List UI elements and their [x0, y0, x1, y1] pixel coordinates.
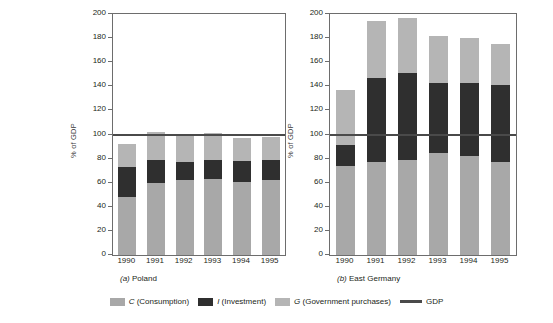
x-tick-label-1990: 1990 — [112, 256, 141, 266]
y-tick-label: 200 — [93, 9, 106, 17]
bar-segment-c — [491, 162, 510, 255]
legend-item-gdp: GDP — [400, 297, 443, 306]
legend-line-marker — [400, 300, 422, 303]
chart-panels: % of GDP 020406080100120140160180200 199… — [0, 0, 553, 290]
bar-1990 — [118, 144, 136, 255]
y-tick-label: 0 — [102, 250, 106, 258]
bar-1991 — [367, 21, 386, 255]
x-tick-label-1992: 1992 — [169, 256, 198, 266]
gdp-reference-line-poland — [113, 134, 285, 136]
y-tick-label: 160 — [93, 57, 106, 65]
bar-1994 — [233, 138, 251, 255]
y-axis-label-east-germany: % of GDP — [286, 123, 295, 158]
plot-area-poland — [112, 13, 286, 256]
x-tick-label-1991: 1991 — [360, 256, 391, 266]
bar-segment-i — [233, 161, 251, 181]
x-tick-label-1995: 1995 — [255, 256, 284, 266]
panel-caption-east-germany: (b) East Germany — [337, 274, 400, 283]
bar-1991 — [147, 132, 165, 255]
bar-segment-c — [176, 180, 194, 255]
y-tick-label: 200 — [310, 9, 323, 17]
x-tick-label-1995: 1995 — [484, 256, 515, 266]
bar-segment-c — [118, 197, 136, 255]
panel-letter-b: (b) — [337, 274, 347, 283]
y-axis-label-poland: % of GDP — [69, 123, 78, 158]
legend-label: I (Investment) — [217, 297, 266, 306]
bar-1993 — [204, 133, 222, 255]
bar-segment-g — [118, 144, 136, 167]
x-tick-label-1993: 1993 — [198, 256, 227, 266]
y-tick-label: 20 — [314, 226, 323, 234]
y-tick-label: 180 — [93, 33, 106, 41]
bar-segment-i — [398, 73, 417, 160]
x-tick-label-1993: 1993 — [422, 256, 453, 266]
bar-1990 — [336, 90, 355, 255]
bar-segment-c — [336, 166, 355, 255]
x-axis-ticks-east-germany: 199019911992199319941995 — [329, 256, 515, 270]
panel-caption-poland: (a) Poland — [120, 274, 157, 283]
bar-segment-c — [147, 183, 165, 255]
bar-segment-c — [204, 179, 222, 255]
chart-panel-poland: % of GDP 020406080100120140160180200 199… — [60, 0, 288, 290]
y-tick-label: 40 — [97, 202, 106, 210]
y-tick-label: 80 — [97, 154, 106, 162]
bar-1993 — [429, 36, 448, 255]
y-tick-label: 20 — [97, 226, 106, 234]
legend-label: GDP — [426, 297, 443, 306]
y-tick-label: 100 — [93, 130, 106, 138]
legend-label: C (Consumption) — [129, 297, 189, 306]
bar-segment-g — [336, 90, 355, 145]
x-tick-label-1994: 1994 — [227, 256, 256, 266]
bar-segment-c — [429, 153, 448, 255]
bar-segment-g — [233, 138, 251, 161]
bar-segment-g — [491, 44, 510, 85]
y-tick-label: 0 — [319, 250, 323, 258]
legend-swatch — [275, 298, 290, 306]
bar-segment-c — [233, 182, 251, 256]
y-tick-label: 120 — [310, 105, 323, 113]
bar-1992 — [176, 136, 194, 255]
legend-label: G (Government purchases) — [294, 297, 391, 306]
bar-segment-i — [429, 83, 448, 153]
chart-panel-east-germany: % of GDP 020406080100120140160180200 199… — [282, 0, 522, 290]
legend-swatch — [110, 298, 125, 306]
plot-area-east-germany — [329, 13, 517, 256]
bar-segment-g — [204, 133, 222, 160]
y-tick-label: 140 — [93, 81, 106, 89]
legend-item-g: G (Government purchases) — [275, 297, 391, 306]
bar-segment-i — [147, 160, 165, 183]
bar-segment-c — [398, 160, 417, 255]
legend-item-c: C (Consumption) — [110, 297, 189, 306]
bar-segment-i — [118, 167, 136, 197]
bar-segment-c — [262, 180, 280, 255]
y-tick-label: 60 — [97, 178, 106, 186]
legend-swatch — [198, 298, 213, 306]
x-tick-label-1992: 1992 — [391, 256, 422, 266]
chart-legend: C (Consumption)I (Investment)G (Governme… — [0, 297, 553, 306]
y-tick-label: 120 — [93, 105, 106, 113]
x-tick-label-1990: 1990 — [329, 256, 360, 266]
y-tick-label: 40 — [314, 202, 323, 210]
y-tick-label: 100 — [310, 130, 323, 138]
y-tick-label: 180 — [310, 33, 323, 41]
y-tick-label: 160 — [310, 57, 323, 65]
panel-name-poland: Poland — [132, 274, 157, 283]
legend-item-i: I (Investment) — [198, 297, 266, 306]
bar-segment-g — [429, 36, 448, 83]
x-tick-label-1991: 1991 — [141, 256, 170, 266]
bar-segment-i — [336, 145, 355, 165]
bar-segment-i — [204, 160, 222, 179]
bar-1992 — [398, 18, 417, 255]
bar-segment-g — [176, 136, 194, 163]
bar-segment-i — [460, 83, 479, 157]
bar-segment-i — [367, 78, 386, 162]
bar-segment-c — [367, 162, 386, 255]
bar-segment-i — [176, 162, 194, 180]
bar-segment-g — [367, 21, 386, 78]
bar-1995 — [491, 44, 510, 255]
bar-segment-g — [398, 18, 417, 73]
gdp-reference-line-east-germany — [330, 134, 516, 136]
bar-segment-g — [460, 38, 479, 83]
bar-segment-g — [262, 137, 280, 160]
bar-segment-c — [460, 156, 479, 255]
